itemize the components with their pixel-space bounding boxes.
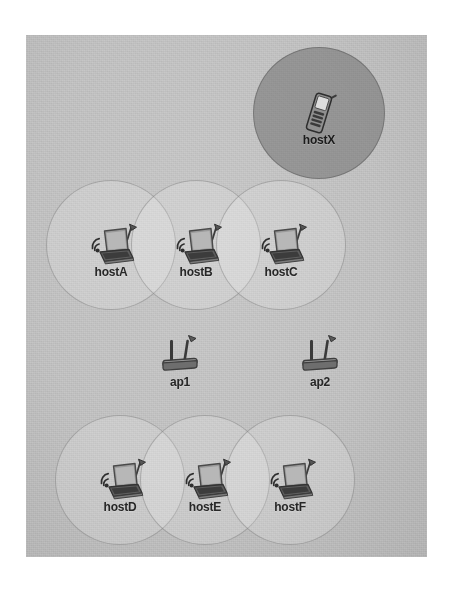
node-hostX[interactable]: hostX bbox=[276, 90, 362, 147]
node-ap1[interactable]: ap1 bbox=[137, 332, 223, 389]
access-point-icon bbox=[277, 332, 363, 376]
node-label-hostA: hostA bbox=[68, 266, 154, 279]
node-ap2[interactable]: ap2 bbox=[277, 332, 363, 389]
node-hostF[interactable]: hostF bbox=[247, 457, 333, 514]
topology-screenshot: hostX hostA bbox=[0, 0, 452, 600]
node-hostE[interactable]: hostE bbox=[162, 457, 248, 514]
access-point-icon bbox=[137, 332, 223, 376]
node-label-hostD: hostD bbox=[77, 501, 163, 514]
node-label-hostB: hostB bbox=[153, 266, 239, 279]
node-label-hostE: hostE bbox=[162, 501, 248, 514]
node-hostD[interactable]: hostD bbox=[77, 457, 163, 514]
laptop-wireless-icon bbox=[238, 222, 324, 266]
node-hostA[interactable]: hostA bbox=[68, 222, 154, 279]
node-label-ap1: ap1 bbox=[137, 376, 223, 389]
laptop-wireless-icon bbox=[162, 457, 248, 501]
laptop-wireless-icon bbox=[77, 457, 163, 501]
mobile-phone-icon bbox=[276, 90, 362, 134]
node-label-hostC: hostC bbox=[238, 266, 324, 279]
node-hostC[interactable]: hostC bbox=[238, 222, 324, 279]
node-label-hostF: hostF bbox=[247, 501, 333, 514]
laptop-wireless-icon bbox=[153, 222, 239, 266]
node-hostB[interactable]: hostB bbox=[153, 222, 239, 279]
laptop-wireless-icon bbox=[68, 222, 154, 266]
laptop-wireless-icon bbox=[247, 457, 333, 501]
simulation-canvas[interactable]: hostX hostA bbox=[26, 35, 427, 557]
node-label-ap2: ap2 bbox=[277, 376, 363, 389]
